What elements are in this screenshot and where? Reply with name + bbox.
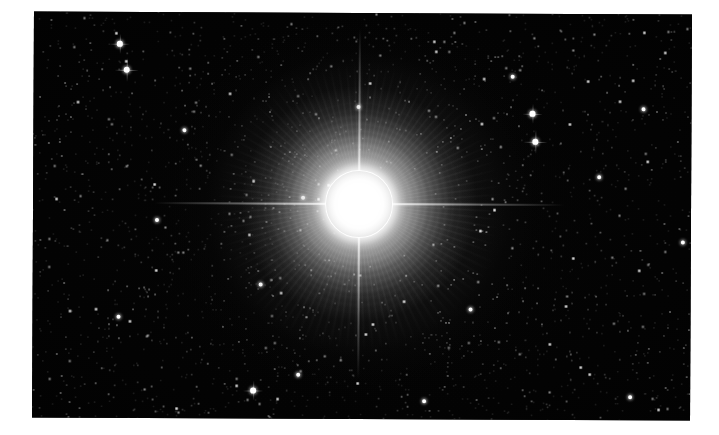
field-star (155, 218, 159, 222)
field-star (301, 195, 305, 199)
diffraction-spike-horizontal (154, 202, 564, 206)
field-star (511, 75, 515, 79)
star-halo-rings (233, 78, 484, 329)
star-disk-rim (325, 170, 393, 238)
field-star-flare (119, 33, 120, 54)
diffraction-spike-vertical (357, 29, 360, 379)
field-star (597, 175, 601, 179)
field-star (357, 105, 361, 109)
astronomy-photo (32, 11, 692, 420)
star-core-highlight (337, 182, 381, 226)
photo-canvas (32, 11, 692, 420)
page-caption (33, 421, 691, 433)
field-star (422, 399, 426, 403)
field-star (641, 107, 646, 112)
field-star (258, 282, 262, 286)
diffraction-spike-horizontal-glow (239, 202, 479, 206)
star-halo-outer (168, 13, 550, 395)
field-star (628, 395, 632, 399)
field-star-flare (532, 103, 533, 124)
field-star-flare (253, 380, 254, 401)
field-star (296, 372, 300, 376)
field-star (182, 128, 186, 132)
field-star-flare (535, 130, 536, 153)
diffraction-spike-vertical-glow (357, 94, 361, 314)
field-star-flare (126, 58, 127, 82)
star-halo-inner (240, 85, 477, 322)
field-star (468, 307, 472, 311)
sky-background-wash (32, 11, 692, 420)
field-star (681, 240, 685, 244)
star-saturated-disk (325, 170, 393, 238)
star-halo-rays (208, 53, 509, 354)
field-star (116, 314, 121, 319)
page-frame (0, 0, 719, 435)
